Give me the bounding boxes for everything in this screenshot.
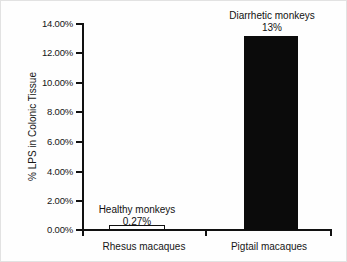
y-axis-tick xyxy=(76,141,83,143)
y-axis-tick-label: 2.00% xyxy=(47,195,73,206)
annotation-diarrhetic-title: Diarrhetic monkeys xyxy=(229,10,315,21)
bar-chart-figure: % LPS in Colonic Tissue 14.00% 12.00% 10… xyxy=(0,0,347,262)
x-axis-tick-label-pigtail: Pigtail macaques xyxy=(207,241,331,252)
y-axis-tick-label: 10.00% xyxy=(42,77,73,88)
x-axis-tick xyxy=(205,229,207,236)
y-axis-tick xyxy=(76,82,83,84)
y-axis-tick-label: 12.00% xyxy=(42,47,73,58)
y-axis-label: % LPS in Colonic Tissue xyxy=(27,37,38,217)
y-axis-tick-label: 8.00% xyxy=(47,106,73,117)
x-axis-tick xyxy=(330,229,332,236)
annotation-diarrhetic-monkeys: Diarrhetic monkeys 13% xyxy=(208,10,336,33)
y-axis-tick-label: 4.00% xyxy=(47,166,73,177)
x-axis-tick xyxy=(82,229,84,236)
annotation-diarrhetic-value: 13% xyxy=(208,22,336,34)
y-axis-tick-label: 0.00% xyxy=(47,224,73,235)
bar-pigtail-macaques xyxy=(244,36,298,230)
x-axis-tick-label-rhesus: Rhesus macaques xyxy=(84,241,204,252)
y-axis-tick xyxy=(76,200,83,202)
y-axis-tick-label: 6.00% xyxy=(47,136,73,147)
annotation-healthy-value: 0.27% xyxy=(87,216,187,228)
y-axis-tick xyxy=(76,111,83,113)
annotation-healthy-title: Healthy monkeys xyxy=(99,204,176,215)
y-axis-tick xyxy=(76,52,83,54)
y-axis-tick xyxy=(76,23,83,25)
y-axis-tick xyxy=(76,171,83,173)
annotation-healthy-monkeys: Healthy monkeys 0.27% xyxy=(87,204,187,227)
y-axis-tick-label: 14.00% xyxy=(42,18,73,29)
